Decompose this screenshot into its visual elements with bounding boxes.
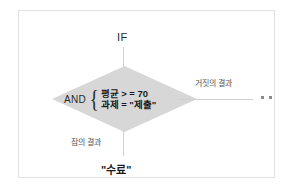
and-operator-label: AND [64, 94, 86, 105]
condition-list: 평균 > = 70 과제 = "제출" [101, 88, 157, 110]
true-result-value: "수료" [101, 161, 131, 177]
true-branch-label: 참의 결과 [71, 136, 101, 147]
connector-line-true-branch [123, 129, 124, 156]
false-branch-label: 거짓의 결과 [195, 77, 232, 88]
diagram-canvas: IF AND { 평균 > = 70 과제 = "제출" 거짓의 결과 참의 결… [0, 0, 295, 189]
condition-brace-icon: { [90, 89, 99, 109]
condition-item-average: 평균 > = 70 [101, 88, 157, 99]
decision-diamond-content: AND { 평균 > = 70 과제 = "제출" [52, 66, 197, 132]
terminal-dot-icon [261, 96, 264, 99]
condition-item-assignment: 과제 = "제출" [101, 99, 157, 110]
false-branch-terminal-dots [261, 96, 272, 99]
terminal-dot-icon [269, 96, 272, 99]
diagram-frame: IF AND { 평균 > = 70 과제 = "제출" 거짓의 결과 참의 결… [18, 10, 275, 178]
connector-line-false-branch [179, 99, 253, 100]
if-label: IF [117, 31, 128, 43]
